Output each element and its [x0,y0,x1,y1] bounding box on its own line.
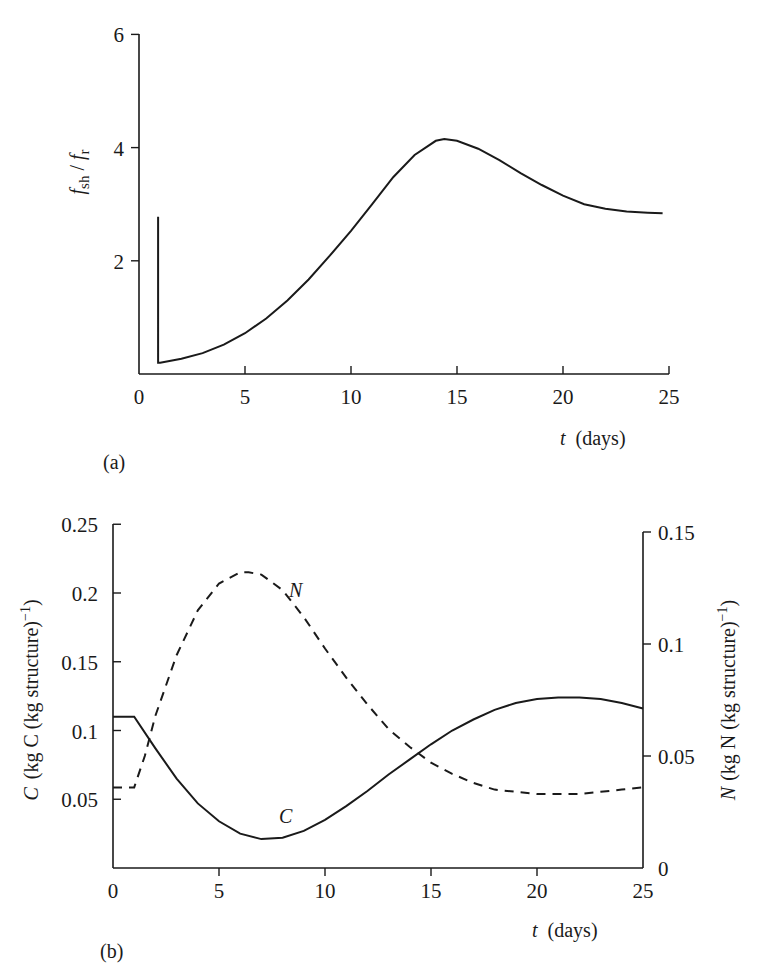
right-y-tick-label: 0 [658,857,669,881]
panel-b-n-annotation: N [288,579,304,601]
x-tick-label: 5 [214,879,225,903]
panel-b-right-y-axis-title: N(kg N (kg structure)−1) [715,600,740,801]
panel-b-chart: 0.050.10.150.20.25 00.050.10.15 05101520… [18,513,740,963]
right-y-tick-label: 0.15 [658,521,695,545]
panel-b-left-y-ticks: 0.050.10.150.20.25 [61,513,121,812]
x-tick-label: 15 [447,385,468,409]
panel-a-y-axis-title: fsh / fr [66,149,92,194]
panel-a-label: (a) [103,451,125,474]
right-y-tick-label: 0.1 [658,633,684,657]
panel-b-series-n-line [113,572,643,794]
x-tick-label: 15 [421,879,442,903]
panel-a-chart: 246 0510152025 fsh / fr t(days) (a) [66,23,680,474]
left-y-tick-label: 0.15 [61,651,98,675]
panel-b-left-y-axis-title: C(kg C (kg structure)−1) [18,599,43,800]
panel-b-right-y-ticks: 00.050.10.15 [643,521,695,881]
left-y-tick-label: 0.05 [61,788,98,812]
y-tick-label: 2 [114,250,125,274]
left-y-tick-label: 0.1 [72,720,98,744]
panel-b-label: (b) [100,940,123,963]
panel-b-x-ticks: 0510152025 [108,868,654,903]
y-tick-label: 6 [114,23,125,47]
x-tick-label: 10 [341,385,362,409]
left-y-tick-label: 0.25 [61,513,98,537]
x-tick-label: 20 [553,385,574,409]
panel-a-y-ticks: 246 [114,23,140,273]
x-tick-label: 0 [134,385,145,409]
x-tick-label: 20 [527,879,548,903]
figure: 246 0510152025 fsh / fr t(days) (a) 0.05… [0,0,762,975]
left-y-tick-label: 0.2 [72,582,98,606]
x-tick-label: 5 [240,385,251,409]
panel-b-x-axis-title: t(days) [532,919,598,942]
x-tick-label: 10 [315,879,336,903]
panel-b-series-c-line [113,698,643,840]
x-tick-label: 0 [108,879,119,903]
panel-a-series-line [158,139,662,363]
x-tick-label: 25 [659,385,680,409]
x-tick-label: 25 [633,879,654,903]
panel-b-c-annotation: C [279,805,293,827]
right-y-tick-label: 0.05 [658,745,695,769]
panel-a-x-axis-title: t(days) [560,427,626,450]
panel-a-x-ticks: 0510152025 [134,366,680,409]
y-tick-label: 4 [114,137,125,161]
